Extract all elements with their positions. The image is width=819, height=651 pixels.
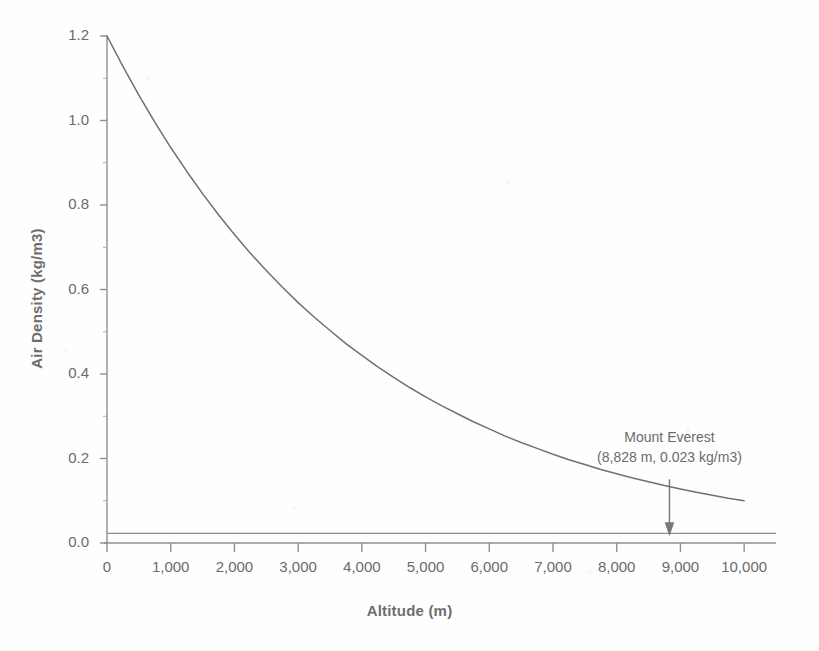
plot-canvas <box>0 0 819 651</box>
y-tick-label: 0.2 <box>41 449 89 466</box>
y-axis-major-ticks <box>100 36 107 543</box>
air-density-altitude-chart: Air Density (kg/m3) Altitude (m) 0.00.20… <box>0 0 819 651</box>
x-tick-label: 0 <box>72 558 142 575</box>
y-tick-label: 1.0 <box>41 111 89 128</box>
x-tick-label: 2,000 <box>199 558 269 575</box>
x-axis-title: Altitude (m) <box>0 602 819 619</box>
annotation-line-1: Mount Everest <box>549 428 789 448</box>
y-tick-label: 0.6 <box>41 280 89 297</box>
x-axis-major-ticks <box>107 543 744 552</box>
x-tick-label: 3,000 <box>263 558 333 575</box>
x-tick-label: 7,000 <box>518 558 588 575</box>
y-tick-label: 1.2 <box>41 26 89 43</box>
y-tick-label: 0.4 <box>41 364 89 381</box>
y-tick-label: 0.0 <box>41 533 89 550</box>
x-tick-label: 6,000 <box>454 558 524 575</box>
x-tick-label: 8,000 <box>582 558 652 575</box>
x-tick-label: 9,000 <box>645 558 715 575</box>
x-tick-label: 10,000 <box>709 558 779 575</box>
annotation-line-2: (8,828 m, 0.023 kg/m3) <box>549 448 789 468</box>
y-tick-label: 0.8 <box>41 195 89 212</box>
x-tick-label: 4,000 <box>327 558 397 575</box>
x-tick-label: 5,000 <box>391 558 461 575</box>
mount-everest-annotation: Mount Everest (8,828 m, 0.023 kg/m3) <box>549 428 789 468</box>
x-tick-label: 1,000 <box>136 558 206 575</box>
